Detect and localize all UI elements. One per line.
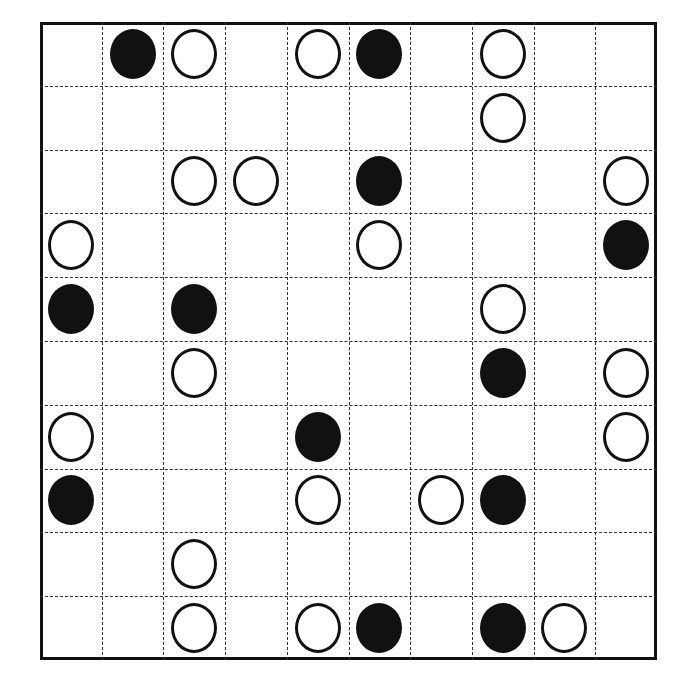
board-cell-r4-c9[interactable] <box>534 213 596 277</box>
board-cell-r4-c6[interactable] <box>349 213 411 277</box>
board-cell-r1-c7[interactable] <box>410 22 472 86</box>
board-cell-r6-c3[interactable] <box>163 341 225 405</box>
board-cell-r6-c5[interactable] <box>287 341 349 405</box>
board-cell-r4-c5[interactable] <box>287 213 349 277</box>
black-stone-icon[interactable] <box>480 475 526 525</box>
black-stone-icon[interactable] <box>480 348 526 398</box>
board-cell-r5-c6[interactable] <box>349 277 411 341</box>
board-cell-r10-c9[interactable] <box>534 596 596 660</box>
board-cell-r1-c6[interactable] <box>349 22 411 86</box>
board-cell-r7-c5[interactable] <box>287 405 349 469</box>
board-cell-r8-c10[interactable] <box>595 469 657 533</box>
board-cell-r1-c1[interactable] <box>40 22 102 86</box>
board-cell-r10-c3[interactable] <box>163 596 225 660</box>
board-cell-r5-c2[interactable] <box>102 277 164 341</box>
board-cell-r1-c10[interactable] <box>595 22 657 86</box>
black-stone-icon[interactable] <box>171 284 217 334</box>
board-cell-r3-c4[interactable] <box>225 150 287 214</box>
black-stone-icon[interactable] <box>603 220 649 270</box>
board-cell-r2-c6[interactable] <box>349 86 411 150</box>
board-cell-r7-c8[interactable] <box>472 405 534 469</box>
board-cell-r1-c3[interactable] <box>163 22 225 86</box>
board-cell-r3-c5[interactable] <box>287 150 349 214</box>
white-stone-icon[interactable] <box>48 412 94 462</box>
board-cell-r8-c7[interactable] <box>410 469 472 533</box>
board-cell-r4-c3[interactable] <box>163 213 225 277</box>
white-stone-icon[interactable] <box>541 603 587 653</box>
black-stone-icon[interactable] <box>480 603 526 653</box>
white-stone-icon[interactable] <box>171 29 217 79</box>
white-stone-icon[interactable] <box>171 603 217 653</box>
board-cell-r3-c3[interactable] <box>163 150 225 214</box>
board-cell-r5-c8[interactable] <box>472 277 534 341</box>
board-cell-r9-c7[interactable] <box>410 532 472 596</box>
board-cell-r3-c8[interactable] <box>472 150 534 214</box>
board-cell-r2-c2[interactable] <box>102 86 164 150</box>
white-stone-icon[interactable] <box>48 220 94 270</box>
board-cell-r6-c9[interactable] <box>534 341 596 405</box>
board-cell-r8-c4[interactable] <box>225 469 287 533</box>
board-cell-r10-c2[interactable] <box>102 596 164 660</box>
board-cell-r10-c1[interactable] <box>40 596 102 660</box>
white-stone-icon[interactable] <box>480 29 526 79</box>
white-stone-icon[interactable] <box>295 603 341 653</box>
board-cell-r8-c2[interactable] <box>102 469 164 533</box>
board-cell-r3-c2[interactable] <box>102 150 164 214</box>
board-cell-r9-c2[interactable] <box>102 532 164 596</box>
board-cell-r7-c9[interactable] <box>534 405 596 469</box>
board-cell-r3-c10[interactable] <box>595 150 657 214</box>
white-stone-icon[interactable] <box>233 156 279 206</box>
board-cell-r7-c3[interactable] <box>163 405 225 469</box>
board-cell-r4-c10[interactable] <box>595 213 657 277</box>
board-cell-r5-c5[interactable] <box>287 277 349 341</box>
board-cell-r9-c10[interactable] <box>595 532 657 596</box>
board-cell-r6-c2[interactable] <box>102 341 164 405</box>
white-stone-icon[interactable] <box>356 220 402 270</box>
board-cell-r2-c1[interactable] <box>40 86 102 150</box>
board-cell-r7-c10[interactable] <box>595 405 657 469</box>
board-cell-r2-c10[interactable] <box>595 86 657 150</box>
board-cell-r10-c10[interactable] <box>595 596 657 660</box>
board-cell-r4-c8[interactable] <box>472 213 534 277</box>
board-cell-r6-c4[interactable] <box>225 341 287 405</box>
board-cell-r9-c5[interactable] <box>287 532 349 596</box>
black-stone-icon[interactable] <box>356 156 402 206</box>
board-cell-r7-c2[interactable] <box>102 405 164 469</box>
board-cell-r2-c8[interactable] <box>472 86 534 150</box>
board-cell-r5-c7[interactable] <box>410 277 472 341</box>
board-cell-r9-c3[interactable] <box>163 532 225 596</box>
board-cell-r5-c10[interactable] <box>595 277 657 341</box>
white-stone-icon[interactable] <box>603 156 649 206</box>
board-cell-r6-c1[interactable] <box>40 341 102 405</box>
board-cell-r8-c5[interactable] <box>287 469 349 533</box>
board-cell-r1-c8[interactable] <box>472 22 534 86</box>
board-cell-r7-c6[interactable] <box>349 405 411 469</box>
white-stone-icon[interactable] <box>603 348 649 398</box>
board-cell-r1-c4[interactable] <box>225 22 287 86</box>
board-cell-r10-c4[interactable] <box>225 596 287 660</box>
board-cell-r3-c1[interactable] <box>40 150 102 214</box>
board-cell-r9-c4[interactable] <box>225 532 287 596</box>
board-cell-r1-c9[interactable] <box>534 22 596 86</box>
white-stone-icon[interactable] <box>171 156 217 206</box>
black-stone-icon[interactable] <box>48 475 94 525</box>
board-cell-r9-c1[interactable] <box>40 532 102 596</box>
black-stone-icon[interactable] <box>48 284 94 334</box>
board-cell-r10-c6[interactable] <box>349 596 411 660</box>
board-cell-r2-c3[interactable] <box>163 86 225 150</box>
board-cell-r4-c1[interactable] <box>40 213 102 277</box>
board-cell-r1-c2[interactable] <box>102 22 164 86</box>
board-cell-r2-c7[interactable] <box>410 86 472 150</box>
board-cell-r4-c7[interactable] <box>410 213 472 277</box>
board-cell-r3-c6[interactable] <box>349 150 411 214</box>
board-cell-r6-c6[interactable] <box>349 341 411 405</box>
board-cell-r7-c4[interactable] <box>225 405 287 469</box>
board-cell-r2-c9[interactable] <box>534 86 596 150</box>
board-cell-r5-c1[interactable] <box>40 277 102 341</box>
black-stone-icon[interactable] <box>295 412 341 462</box>
board-cell-r2-c4[interactable] <box>225 86 287 150</box>
white-stone-icon[interactable] <box>480 93 526 143</box>
board-cell-r9-c9[interactable] <box>534 532 596 596</box>
board-cell-r3-c9[interactable] <box>534 150 596 214</box>
board-cell-r9-c8[interactable] <box>472 532 534 596</box>
